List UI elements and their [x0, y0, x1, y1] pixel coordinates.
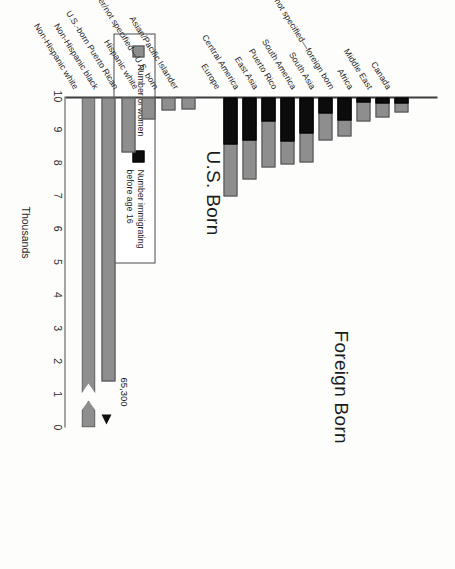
- value-axis-ticks: 10 9 8 7 6 5 4 3 2 1 0: [39, 96, 63, 427]
- bar-row-non-hispanic-black: [101, 97, 115, 381]
- bar-row-hispanic-white: [141, 97, 155, 119]
- tick-7: 7: [51, 192, 63, 198]
- bar-segment-total: [81, 97, 95, 427]
- bar-row-south-asia: [318, 97, 332, 140]
- break-value-label: 65,300: [118, 377, 129, 406]
- bar-row-europe: [223, 97, 237, 196]
- tick-9: 9: [51, 126, 63, 132]
- bar-segment-total: [141, 97, 155, 119]
- bar-row-non-hispanic-white: [81, 97, 95, 427]
- bar-segment-before-16: [242, 97, 256, 140]
- tick-4: 4: [51, 292, 63, 298]
- bar-row-africa: [356, 97, 370, 121]
- bar-segment-before-16: [318, 97, 332, 113]
- bar-segment-total: [101, 97, 115, 381]
- tick-2: 2: [51, 358, 63, 364]
- bar-row-other-foreign-born: [337, 97, 351, 136]
- bar-row-east-asia: [261, 97, 275, 167]
- plot-area: Non-Hispanic white Non-Hispanic black U.…: [65, 96, 437, 516]
- bar-segment-total: [161, 97, 175, 110]
- break-arrow-icon: [101, 414, 111, 424]
- tick-3: 3: [51, 325, 63, 331]
- bar-segment-before-16: [356, 97, 370, 102]
- bar-segment-before-16: [394, 97, 408, 103]
- bar-row-asian-pacific-islander: [181, 97, 195, 109]
- bar-segment-before-16: [375, 97, 389, 103]
- bar-row-central-america: [242, 97, 256, 179]
- bar-segment-before-16: [223, 97, 237, 144]
- bar-row-us-born-puerto-rican: [121, 97, 135, 152]
- value-axis-line: [64, 96, 65, 427]
- bar-row-middle-east: [375, 97, 389, 117]
- chart-page: Number of women Number immigrating befor…: [0, 0, 455, 569]
- bar-segment-before-16: [337, 97, 351, 120]
- bar-row-puerto-rico: [280, 97, 294, 164]
- tick-5: 5: [51, 258, 63, 264]
- bar-segment-before-16: [299, 97, 313, 133]
- tick-1: 1: [51, 391, 63, 397]
- bar-series-container: [65, 97, 437, 516]
- tick-8: 8: [51, 159, 63, 165]
- tick-10: 10: [51, 90, 63, 102]
- bar-segment-before-16: [261, 97, 275, 121]
- tick-0: 0: [51, 424, 63, 430]
- value-axis-title: Thousands: [19, 206, 31, 258]
- bar-segment-total: [121, 97, 135, 152]
- bar-segment-total-broken-tip: [81, 400, 95, 427]
- chart-stage: Number of women Number immigrating befor…: [0, 0, 455, 569]
- bar-row-south-america: [299, 97, 313, 162]
- bar-segment-total: [181, 97, 195, 109]
- bar-row-other-us-born: [161, 97, 175, 110]
- tick-6: 6: [51, 225, 63, 231]
- bar-segment-before-16: [280, 97, 294, 141]
- bar-row-canada: [394, 97, 408, 112]
